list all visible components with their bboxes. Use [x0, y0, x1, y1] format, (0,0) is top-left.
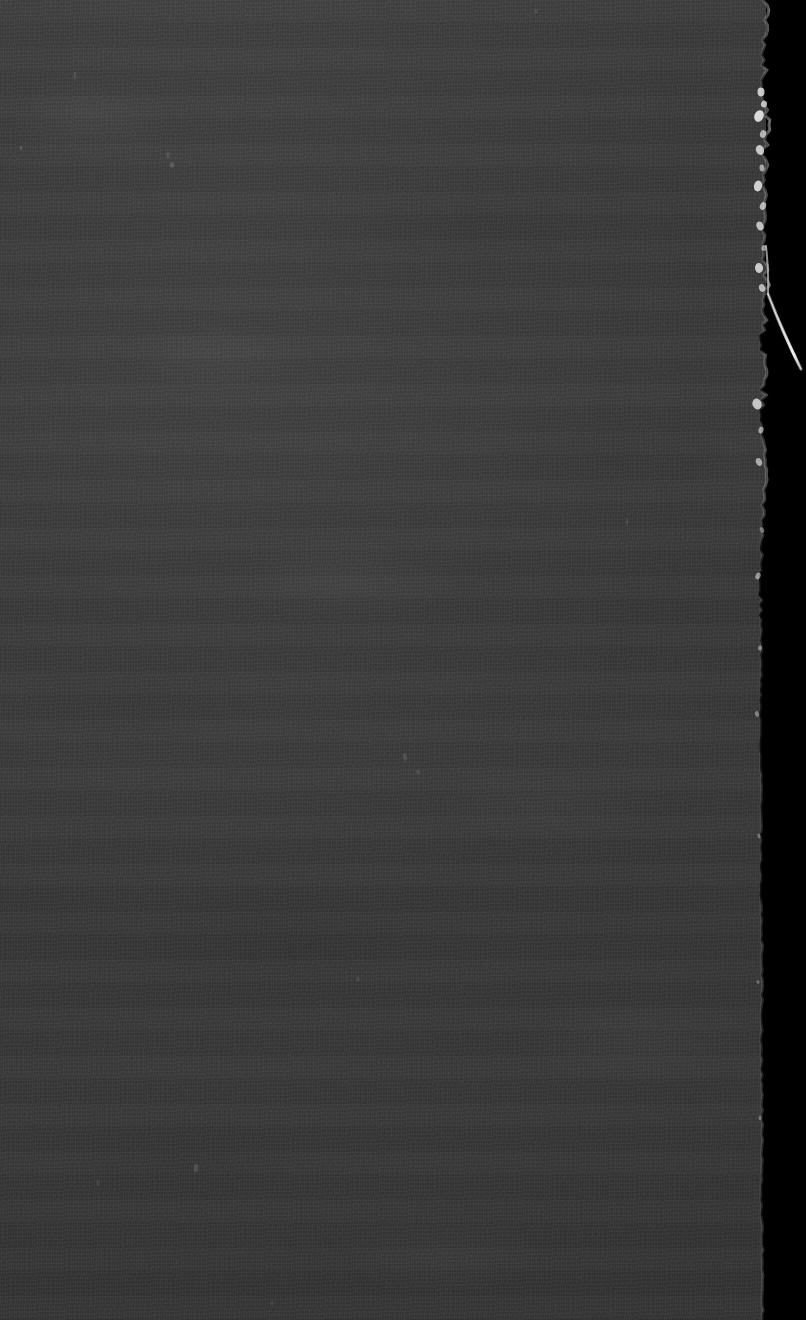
material-slab	[0, 0, 766, 1320]
material-vignette	[0, 0, 766, 1320]
image-canvas: Extreme close-up macro photograph of a d…	[0, 0, 806, 1320]
protruding-fiber	[766, 246, 801, 369]
